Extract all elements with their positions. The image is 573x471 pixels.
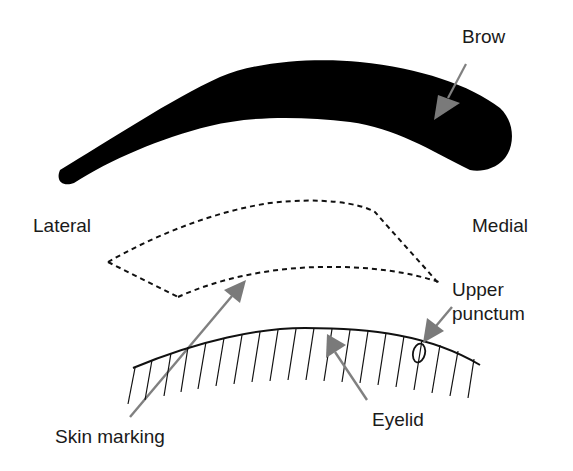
brow-shape — [59, 60, 512, 184]
upper-punctum-label-line2: punctum — [452, 302, 525, 326]
upper-punctum-arrow — [423, 307, 452, 343]
eyelid-hatching — [128, 328, 474, 404]
skin-marking-top-edge — [108, 201, 440, 285]
eyelid-arrow — [326, 334, 367, 400]
upper-punctum-label-line1: Upper — [452, 278, 525, 302]
skin-marking-outline — [108, 201, 442, 297]
lateral-label: Lateral — [33, 216, 91, 237]
skin-marking-label: Skin marking — [55, 427, 165, 448]
brow-label: Brow — [462, 27, 505, 48]
eyelid-label: Eyelid — [372, 410, 424, 431]
upper-punctum-label: Upper punctum — [452, 278, 525, 326]
medial-label: Medial — [472, 216, 528, 237]
skin-marking-lateral-edge — [108, 262, 178, 297]
skin-marking-bottom-edge — [178, 267, 442, 297]
